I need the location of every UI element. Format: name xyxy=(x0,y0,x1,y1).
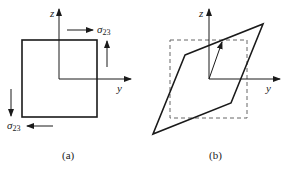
panel-b: z y (b) xyxy=(153,7,280,162)
shear-stress-diagram: z y σ23 σ23 (a) z y (b) xyxy=(0,0,284,169)
y-axis-label: y xyxy=(116,82,122,94)
z-axis-label: z xyxy=(198,7,204,19)
stress-label-top: σ23 xyxy=(97,23,110,37)
displacement-arrow xyxy=(209,42,222,79)
z-axis-label: z xyxy=(49,7,55,19)
caption-a: (a) xyxy=(62,149,75,162)
stress-label-bottom: σ23 xyxy=(7,119,20,133)
y-axis-label: y xyxy=(265,82,271,94)
panel-a: z y σ23 σ23 (a) xyxy=(7,7,131,162)
caption-b: (b) xyxy=(209,149,222,162)
